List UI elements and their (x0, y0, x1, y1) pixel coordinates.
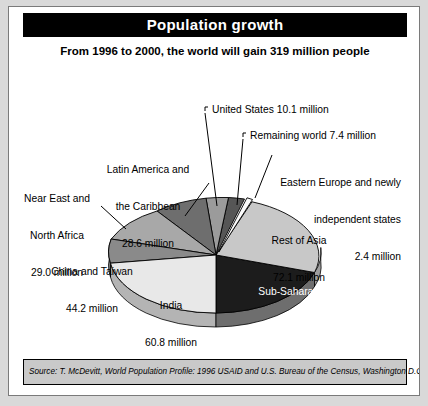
label-near-east-line1: Near East and (11, 193, 103, 205)
label-latin-america-line2: the Caribbean (85, 201, 211, 213)
label-india-line1: India (127, 300, 215, 312)
label-sub-saharan-africa: Sub-Saharan Africa 64.5 million (237, 261, 369, 360)
label-united-states: United States 10.1 million (212, 104, 329, 116)
label-india-line2: 60.8 million (127, 337, 215, 349)
label-latin-america-line1: Latin America and (85, 164, 211, 176)
label-eastern-europe-line1: Eastern Europe and newly (249, 177, 401, 189)
leader-line-remaining-world (243, 133, 246, 137)
source-bar: Source: T. McDevitt, World Population Pr… (23, 359, 407, 385)
chart-figure: Population growth From 1996 to 2000, the… (8, 6, 420, 396)
leader-line-remaining-world-stem (237, 139, 243, 205)
source-citation: Source: T. McDevitt, World Population Pr… (29, 367, 420, 376)
label-remaining-world: Remaining world 7.4 million (250, 130, 376, 142)
label-rest-of-asia-line1: Rest of Asia (247, 235, 351, 247)
label-sub-saharan-line1: Sub-Saharan Africa (237, 286, 369, 298)
label-sub-saharan-line2: 64.5 million (237, 323, 369, 335)
leader-line-united-states (205, 107, 208, 111)
